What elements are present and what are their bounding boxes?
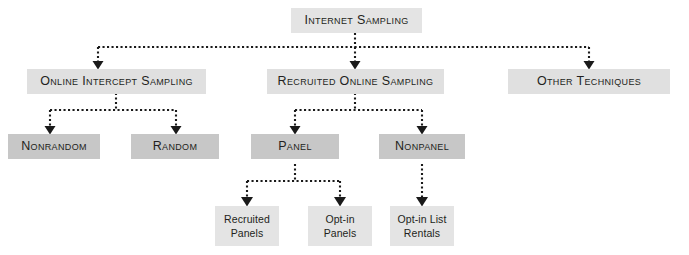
node-nonrandom[interactable]: Nonrandom: [8, 134, 100, 159]
node-panel[interactable]: Panel: [251, 134, 339, 159]
node-label-nonrandom: Nonrandom: [21, 139, 87, 154]
node-online-intercept-sampling[interactable]: Online Intercept Sampling: [27, 69, 206, 94]
node-label-opt-in-list-rentals: Opt-in List Rentals: [394, 212, 450, 240]
node-label-recruited-online-sampling: Recruited Online Sampling: [278, 74, 434, 89]
node-internet-sampling[interactable]: Internet Sampling: [291, 8, 422, 33]
node-label-nonpanel: Nonpanel: [395, 139, 449, 154]
node-label-random: Random: [153, 139, 198, 154]
node-opt-in-panels[interactable]: Opt-in Panels: [308, 206, 372, 246]
internet-sampling-diagram: Internet Sampling Online Intercept Sampl…: [0, 0, 689, 255]
node-other-techniques[interactable]: Other Techniques: [508, 69, 670, 94]
node-label-internet-sampling: Internet Sampling: [304, 13, 408, 28]
node-opt-in-list-rentals[interactable]: Opt-in List Rentals: [390, 206, 454, 246]
node-label-panel: Panel: [278, 139, 312, 154]
node-random[interactable]: Random: [131, 134, 219, 159]
node-label-recruited-panels: Recruited Panels: [219, 212, 275, 240]
node-label-opt-in-panels: Opt-in Panels: [312, 212, 368, 240]
node-recruited-online-sampling[interactable]: Recruited Online Sampling: [267, 69, 444, 94]
node-label-other-techniques: Other Techniques: [537, 74, 641, 89]
node-label-online-intercept-sampling: Online Intercept Sampling: [40, 74, 193, 89]
node-nonpanel[interactable]: Nonpanel: [379, 134, 465, 159]
node-recruited-panels[interactable]: Recruited Panels: [215, 206, 279, 246]
